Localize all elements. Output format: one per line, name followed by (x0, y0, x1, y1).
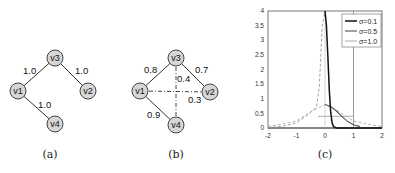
svg-text:-1: -1 (294, 132, 300, 139)
svg-text:1: 1 (260, 95, 264, 102)
svg-text:v2: v2 (83, 86, 93, 96)
svg-text:σ=1.0: σ=1.0 (359, 38, 377, 45)
chart-c: 0 0.5 1 1.5 2 2.5 3 3.5 4 -2 -1 0 1 2 (255, 7, 384, 161)
svg-text:3: 3 (260, 36, 264, 43)
caption-b: (b) (168, 148, 184, 161)
edge-weight-v3-v2: 1.0 (75, 65, 88, 76)
edge-weight-v1-v2: 0.3 (188, 94, 201, 105)
svg-text:-2: -2 (265, 132, 271, 139)
legend: σ=0.1 σ=0.5 σ=1.0 (342, 14, 381, 47)
svg-text:2.5: 2.5 (255, 51, 264, 58)
svg-text:v2: v2 (205, 87, 215, 97)
caption-c: (c) (318, 148, 333, 161)
svg-text:v3: v3 (50, 53, 60, 63)
caption-a: (a) (42, 148, 57, 161)
node-v1: v1 (10, 83, 26, 99)
node-v2: v2 (80, 83, 96, 99)
node-v4: v4 (47, 116, 63, 132)
svg-text:0.5: 0.5 (255, 110, 264, 117)
node-v3: v3 (168, 50, 184, 66)
node-v1: v1 (132, 83, 148, 99)
svg-text:4: 4 (260, 7, 264, 14)
svg-text:1.5: 1.5 (255, 80, 264, 87)
svg-text:v1: v1 (135, 86, 145, 96)
edge-weight-v1-v3: 0.8 (144, 64, 157, 75)
svg-text:1: 1 (352, 132, 356, 139)
figure: 1.0 1.0 1.0 v3 v1 v2 v4 (a) 0.8 0.7 0.4 … (0, 0, 395, 173)
svg-text:v1: v1 (13, 86, 23, 96)
svg-text:σ=0.1: σ=0.1 (359, 18, 377, 25)
edge-weight-v3-v2: 0.7 (195, 64, 208, 75)
node-v4: v4 (168, 117, 184, 133)
series-dashed-narrow (268, 11, 325, 127)
svg-text:0: 0 (323, 132, 327, 139)
edge-weight-v1-v3: 1.0 (23, 65, 36, 76)
edge-weight-v1-v4: 0.9 (147, 109, 160, 120)
node-v3: v3 (47, 50, 63, 66)
svg-text:σ=0.5: σ=0.5 (359, 28, 377, 35)
svg-text:3.5: 3.5 (255, 22, 264, 29)
svg-text:2: 2 (260, 66, 264, 73)
x-axis: -2 -1 0 1 2 (265, 132, 384, 139)
svg-text:v4: v4 (50, 119, 60, 129)
svg-text:2: 2 (380, 132, 384, 139)
y-axis: 0 0.5 1 1.5 2 2.5 3 3.5 4 (255, 7, 264, 131)
svg-text:0: 0 (260, 124, 264, 131)
svg-text:v3: v3 (171, 53, 181, 63)
edge-v1-v2 (140, 91, 210, 92)
edge-weight-v1-v4: 1.0 (38, 99, 51, 110)
node-v2: v2 (202, 84, 218, 100)
edge-weight-v3-v4: 0.4 (177, 73, 190, 84)
graph-a: 1.0 1.0 1.0 v3 v1 v2 v4 (a) (10, 50, 96, 161)
svg-text:v4: v4 (171, 120, 181, 130)
graph-b: 0.8 0.7 0.4 0.3 0.9 v3 v1 v2 v4 (b) (132, 50, 218, 161)
